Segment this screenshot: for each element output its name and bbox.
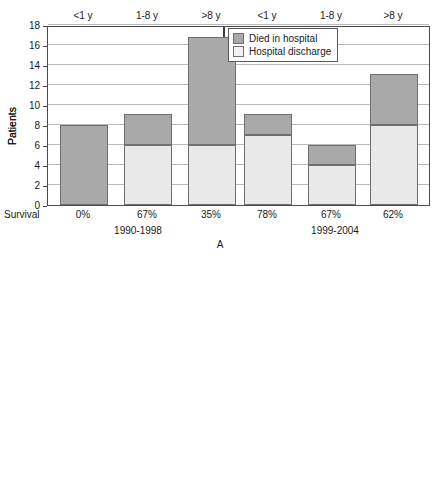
bar-segment-discharged (244, 135, 292, 205)
age-group-label: >8 y (357, 10, 429, 21)
age-group-label: <1 y (47, 10, 119, 21)
era-label-left-a: 1990-1998 (68, 225, 208, 236)
y-axis-tick-label: 4 (0, 161, 40, 171)
bar (60, 125, 108, 205)
gridline (48, 24, 429, 25)
chart-panel-a: Patients 024681012141618 <1 y1-8 y>8 y<1… (0, 0, 441, 250)
y-axis-tick-label: 16 (0, 41, 40, 51)
legend-a: Died in hospital Hospital discharge (228, 28, 338, 62)
y-axis-tick-mark (43, 206, 47, 207)
bar-segment-discharged (308, 165, 356, 205)
era-label-right-a: 1999-2004 (265, 225, 405, 236)
y-axis-tick-label: 14 (0, 61, 40, 71)
bar-segment-discharged (124, 145, 172, 205)
survival-value: 67% (111, 209, 183, 220)
survival-row-label-a: Survival (4, 209, 40, 220)
bar (188, 37, 236, 205)
survival-value: 78% (231, 209, 303, 220)
legend-swatch-discharged-icon (233, 46, 244, 57)
bar-segment-died (370, 74, 418, 125)
bar-segment-died (60, 125, 108, 205)
legend-swatch-died-icon (233, 33, 244, 44)
survival-value: 0% (47, 209, 119, 220)
y-axis-tick-label: 18 (0, 21, 40, 31)
bar (244, 114, 292, 205)
legend-item-died-a: Died in hospital (233, 32, 331, 45)
panel-letter-a: A (200, 239, 240, 250)
legend-label-died-a: Died in hospital (249, 33, 317, 44)
bar (124, 114, 172, 205)
bar-segment-died (308, 145, 356, 165)
y-axis-title-b: Patients (6, 107, 18, 145)
legend-item-discharged-a: Hospital discharge (233, 45, 331, 58)
bar-segment-discharged (370, 125, 418, 205)
age-group-label: <1 y (231, 10, 303, 21)
bar (370, 74, 418, 205)
bar-segment-died (124, 114, 172, 145)
y-axis-tick-label: 2 (0, 181, 40, 191)
y-axis-tick-label: 12 (0, 81, 40, 91)
survival-value: 62% (357, 209, 429, 220)
legend-label-discharged-a: Hospital discharge (249, 46, 331, 57)
age-group-label: 1-8 y (111, 10, 183, 21)
bar-segment-discharged (188, 145, 236, 205)
gridline (48, 64, 429, 65)
chart-panel-b: Patients 024681012141618 CMPMyo-carditis… (0, 250, 441, 501)
bar-segment-died (244, 114, 292, 135)
bar (308, 145, 356, 205)
